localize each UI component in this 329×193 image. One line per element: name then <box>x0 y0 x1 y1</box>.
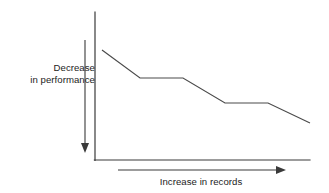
y-axis-label-line-1: Decrease <box>54 62 95 73</box>
chart-canvas <box>0 0 329 193</box>
performance-data-line <box>102 50 310 123</box>
arrow-down-icon <box>81 40 89 153</box>
x-axis-label: Increase in records <box>141 176 261 188</box>
y-axis-label: Decreasein performance <box>0 62 95 85</box>
arrow-right-icon <box>118 166 286 174</box>
y-axis-label-line-2: in performance <box>30 74 95 85</box>
chart-figure: Decreasein performance Increase in recor… <box>0 0 329 193</box>
